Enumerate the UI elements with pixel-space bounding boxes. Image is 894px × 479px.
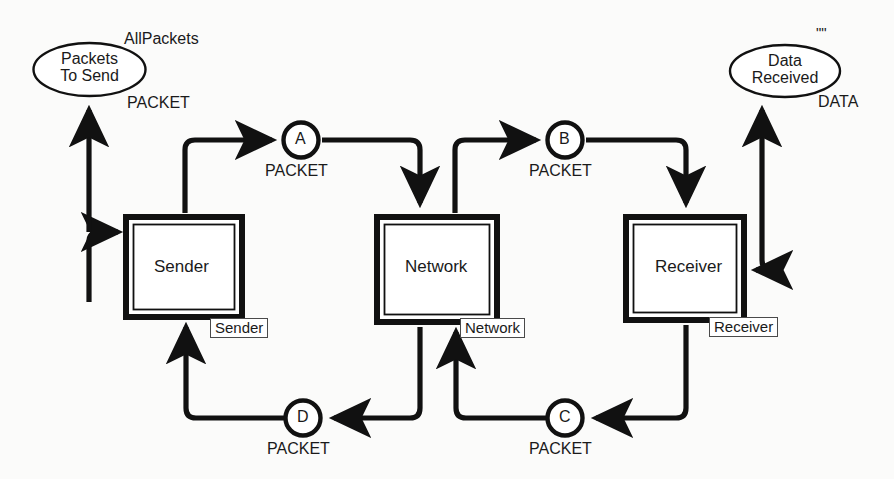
arc-receiver-c (596, 325, 686, 418)
arc-c-network (456, 332, 546, 418)
arc-a-network (322, 140, 420, 203)
place-data-received-colorset: DATA (818, 94, 858, 111)
transition-network-tag[interactable]: Network (460, 318, 525, 338)
place-packets-to-send-colorset: PACKET (127, 95, 190, 112)
transition-receiver-tag[interactable]: Receiver (709, 317, 778, 337)
place-label-line1: Data (730, 53, 840, 70)
arc-b-receiver (586, 140, 686, 203)
place-label-line1: Packets (34, 51, 145, 68)
arc-d-sender (186, 327, 284, 418)
arc-network-b (455, 140, 536, 213)
transition-sender-tag[interactable]: Sender (210, 318, 268, 338)
place-data-received-marking: "" (816, 25, 827, 41)
arc-sender-a (185, 140, 272, 213)
place-c-colorset: PACKET (529, 441, 592, 458)
place-label-line2: To Send (34, 68, 145, 85)
transition-receiver-label: Receiver (655, 258, 722, 276)
diagram-canvas: Packets To Send AllPackets PACKET Data R… (0, 0, 894, 479)
place-d-colorset: PACKET (267, 441, 330, 458)
place-packets-to-send-marking: AllPackets (124, 31, 199, 48)
place-a-colorset: PACKET (265, 163, 328, 180)
place-data-received-label: Data Received (730, 53, 840, 87)
place-c-label: C (559, 409, 571, 426)
place-b-label: B (559, 131, 570, 148)
place-b-colorset: PACKET (529, 163, 592, 180)
place-label-line2: Received (730, 70, 840, 87)
transition-sender-label: Sender (154, 258, 209, 276)
arc-network-d (334, 327, 420, 418)
place-packets-to-send-label: Packets To Send (34, 51, 145, 85)
transition-network-label: Network (405, 258, 467, 276)
place-d-label: D (297, 409, 309, 426)
arc-packetstosend-sender-in (89, 232, 118, 302)
place-a-label: A (295, 131, 306, 148)
arc-receiver-datareceived-out (762, 110, 782, 270)
